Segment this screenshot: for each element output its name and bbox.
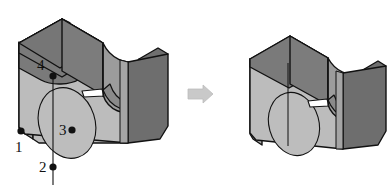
left-part-front-right-corner — [120, 60, 128, 143]
annotation-label-1: 1 — [15, 139, 23, 155]
right-part-notch-tab — [308, 99, 329, 107]
left-part-group: 1 2 3 4 — [15, 19, 168, 185]
annotation-label-3: 3 — [59, 122, 67, 138]
transform-arrow-icon — [188, 85, 213, 103]
left-part-right-side-face — [128, 54, 168, 143]
annotation-label-2: 2 — [39, 159, 47, 175]
right-part-right-side-face — [343, 66, 386, 149]
right-part-group — [250, 36, 386, 162]
annotation-point-4[interactable] — [49, 72, 56, 79]
annotation-point-2[interactable] — [49, 163, 56, 170]
left-part-notch-tab — [82, 89, 104, 97]
scene-svg: 1 2 3 4 — [0, 0, 388, 188]
annotation-label-4: 4 — [37, 57, 45, 73]
annotation-point-1[interactable] — [17, 127, 24, 134]
right-part-front-right-corner — [336, 71, 343, 149]
transform-arrow — [188, 85, 213, 103]
figure-canvas: 1 2 3 4 — [0, 0, 388, 188]
annotation-point-3[interactable] — [68, 126, 75, 133]
